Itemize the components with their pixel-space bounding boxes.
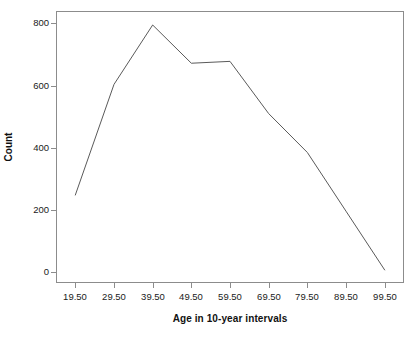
x-axis-title: Age in 10-year intervals (56, 313, 404, 324)
x-tick-mark (307, 283, 308, 288)
x-tick-mark (385, 283, 386, 288)
line-chart: 0200400600800 19.5029.5039.5049.5059.506… (0, 0, 417, 338)
x-tick-mark (153, 283, 154, 288)
x-tick-mark (114, 283, 115, 288)
x-tick-mark (346, 283, 347, 288)
data-series-layer (56, 11, 404, 283)
x-tick-mark (75, 283, 76, 288)
x-tick-mark (191, 283, 192, 288)
x-tick-mark (269, 283, 270, 288)
y-axis-title: Count (2, 11, 16, 283)
x-tick-label: 99.50 (362, 292, 408, 302)
x-tick-mark (230, 283, 231, 288)
series-line-count (75, 25, 384, 270)
